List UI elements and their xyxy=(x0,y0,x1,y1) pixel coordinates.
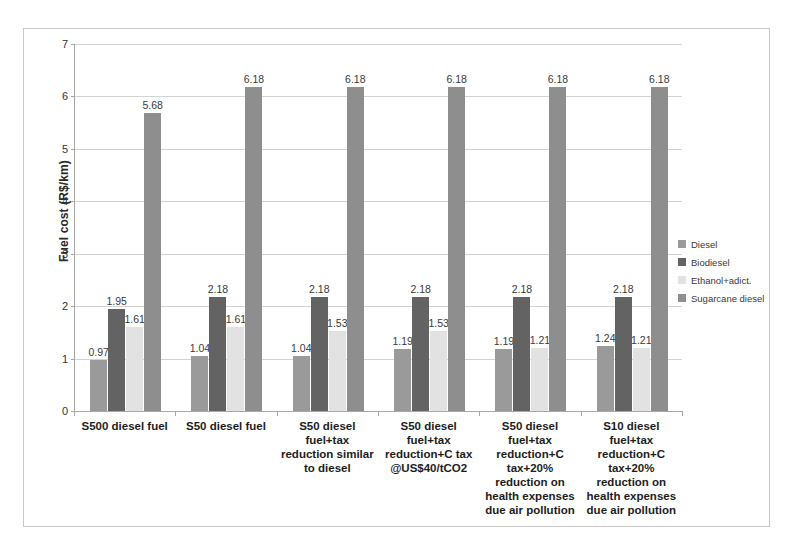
category-separator xyxy=(479,411,480,416)
category-label-line: S10 diesel xyxy=(581,419,682,433)
legend-item[interactable]: Sugarcane diesel xyxy=(678,289,793,307)
category-label-line: reduction on xyxy=(581,475,682,489)
category-label: S50 diesel fuel xyxy=(175,419,276,433)
bar-group: 1.042.181.536.18 xyxy=(278,44,379,411)
bar-diesel[interactable]: 0.97 xyxy=(90,360,107,411)
bar-sugarcane-diesel[interactable]: 6.18 xyxy=(549,87,566,411)
bar-sugarcane-diesel[interactable]: 6.18 xyxy=(347,87,364,411)
bar-biodiesel[interactable]: 2.18 xyxy=(615,297,632,411)
bar-diesel[interactable]: 1.19 xyxy=(495,349,512,411)
bar-sugarcane-diesel[interactable]: 5.68 xyxy=(144,113,161,411)
bars-layer: 0.971.951.615.681.042.181.616.181.042.18… xyxy=(75,44,682,411)
bar-sugarcane-diesel[interactable]: 6.18 xyxy=(245,87,262,411)
bar-value-label: 6.18 xyxy=(649,73,669,85)
bar-value-label: 1.53 xyxy=(327,317,347,329)
category-label-line: fuel+tax xyxy=(581,433,682,447)
bar-group: 1.192.181.216.18 xyxy=(480,44,581,411)
category-label-line: S50 diesel fuel xyxy=(175,419,276,433)
bar-value-label: 1.61 xyxy=(226,313,246,325)
category-label: S500 diesel fuel xyxy=(74,419,175,433)
bar-biodiesel[interactable]: 2.18 xyxy=(311,297,328,411)
bar-value-label: 6.18 xyxy=(244,73,264,85)
legend-item[interactable]: Diesel xyxy=(678,235,793,253)
bar-value-label: 1.95 xyxy=(106,295,126,307)
bar-value-label: 1.04 xyxy=(291,342,311,354)
bar-value-label: 1.19 xyxy=(392,335,412,347)
category-label-line: S50 diesel xyxy=(277,419,378,433)
bar-ethanol-adict[interactable]: 1.61 xyxy=(227,327,244,411)
bar-sugarcane-diesel[interactable]: 6.18 xyxy=(651,87,668,411)
category-label: S10 dieselfuel+taxreduction+Ctax+20%redu… xyxy=(581,419,682,517)
bar-value-label: 5.68 xyxy=(142,99,162,111)
legend-item[interactable]: Ethanol+adict. xyxy=(678,271,793,289)
y-axis-tick-label: 1 xyxy=(62,353,68,365)
category-label-line: fuel+tax xyxy=(378,433,479,447)
category-separator xyxy=(581,411,582,416)
legend-item[interactable]: Biodiesel xyxy=(678,253,793,271)
bar-group: 0.971.951.615.68 xyxy=(75,44,176,411)
bar-sugarcane-diesel[interactable]: 6.18 xyxy=(448,87,465,411)
bar-biodiesel[interactable]: 2.18 xyxy=(209,297,226,411)
bar-diesel[interactable]: 1.24 xyxy=(597,346,614,411)
category-axis: S500 diesel fuelS50 diesel fuelS50 diese… xyxy=(74,411,682,523)
bar-diesel[interactable]: 1.04 xyxy=(191,356,208,411)
bar-value-label: 6.18 xyxy=(446,73,466,85)
bar-value-label: 1.24 xyxy=(595,332,615,344)
bar-group: 1.242.181.216.18 xyxy=(582,44,683,411)
y-axis-tick-label: 4 xyxy=(62,195,68,207)
category-label-line: fuel+tax xyxy=(277,433,378,447)
bar-value-label: 1.21 xyxy=(530,334,550,346)
legend-label: Ethanol+adict. xyxy=(691,275,751,286)
category-separator xyxy=(378,411,379,416)
bar-value-label: 6.18 xyxy=(548,73,568,85)
legend-swatch-icon xyxy=(678,258,686,266)
bar-value-label: 1.53 xyxy=(428,317,448,329)
bar-value-label: 2.18 xyxy=(309,283,329,295)
category-label-line: S50 diesel xyxy=(479,419,580,433)
category-label-line: due air pollution xyxy=(479,503,580,517)
y-axis-tick-label: 0 xyxy=(62,405,68,417)
legend-label: Sugarcane diesel xyxy=(691,293,764,304)
bar-ethanol-adict[interactable]: 1.61 xyxy=(126,327,143,411)
category-label-line: @US$40/tCO2 xyxy=(378,461,479,475)
bar-ethanol-adict[interactable]: 1.21 xyxy=(633,348,650,411)
category-label-line: tax+20% xyxy=(479,461,580,475)
category-label-line: reduction+C xyxy=(479,447,580,461)
bar-value-label: 2.18 xyxy=(410,283,430,295)
y-axis-title: Fuel cost (R$/km) xyxy=(57,111,71,311)
bar-value-label: 1.21 xyxy=(631,334,651,346)
legend-swatch-icon xyxy=(678,294,686,302)
category-label-line: reduction similar xyxy=(277,447,378,461)
bar-value-label: 2.18 xyxy=(512,283,532,295)
bar-biodiesel[interactable]: 1.95 xyxy=(108,309,125,411)
bar-ethanol-adict[interactable]: 1.21 xyxy=(531,348,548,411)
bar-value-label: 6.18 xyxy=(345,73,365,85)
category-label-line: due air pollution xyxy=(581,503,682,517)
bar-biodiesel[interactable]: 2.18 xyxy=(513,297,530,411)
category-separator xyxy=(277,411,278,416)
bar-diesel[interactable]: 1.04 xyxy=(293,356,310,411)
y-axis-tick-label: 2 xyxy=(62,300,68,312)
bar-ethanol-adict[interactable]: 1.53 xyxy=(329,331,346,411)
category-separator xyxy=(175,411,176,416)
category-separator xyxy=(74,411,75,416)
category-separator xyxy=(682,411,683,416)
chart-legend: DieselBiodieselEthanol+adict.Sugarcane d… xyxy=(678,235,793,307)
legend-swatch-icon xyxy=(678,240,686,248)
legend-label: Diesel xyxy=(691,239,717,250)
category-label-line: reduction+C tax xyxy=(378,447,479,461)
bar-ethanol-adict[interactable]: 1.53 xyxy=(430,331,447,411)
y-axis-tick-label: 7 xyxy=(62,38,68,50)
y-axis-tick-label: 6 xyxy=(62,90,68,102)
bar-diesel[interactable]: 1.19 xyxy=(394,349,411,411)
bar-value-label: 1.04 xyxy=(190,342,210,354)
bar-value-label: 1.19 xyxy=(494,335,514,347)
bar-biodiesel[interactable]: 2.18 xyxy=(412,297,429,411)
category-label-line: fuel+tax xyxy=(479,433,580,447)
category-label: S50 dieselfuel+taxreduction+C tax@US$40/… xyxy=(378,419,479,475)
bar-value-label: 2.18 xyxy=(613,283,633,295)
category-label: S50 dieselfuel+taxreduction+Ctax+20%redu… xyxy=(479,419,580,517)
bar-value-label: 1.61 xyxy=(124,313,144,325)
category-label-line: health expenses xyxy=(581,489,682,503)
legend-swatch-icon xyxy=(678,276,686,284)
